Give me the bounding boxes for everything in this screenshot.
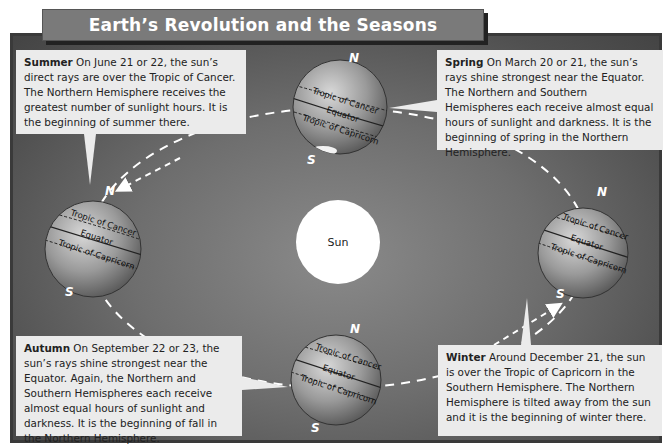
winter-heading: Winter bbox=[446, 351, 486, 363]
spring-heading: Spring bbox=[445, 56, 483, 68]
winter-pointer bbox=[521, 298, 531, 345]
diagram-title: Earth’s Revolution and the Seasons bbox=[89, 15, 438, 35]
summer-heading: Summer bbox=[24, 56, 73, 68]
south-pole-label: S bbox=[311, 421, 320, 435]
globe-spring: Tropic of Cancer Equator Tropic of Capri… bbox=[290, 51, 392, 167]
north-pole-label: N bbox=[597, 185, 607, 199]
globe-autumn: Tropic of Cancer Equator Tropic of Capri… bbox=[291, 322, 383, 435]
sun-label: Sun bbox=[328, 236, 349, 249]
autumn-heading: Autumn bbox=[24, 342, 70, 354]
autumn-text: On September 22 or 23, the sun’s rays sh… bbox=[24, 342, 219, 444]
globe-winter: Tropic of Cancer Equator Tropic of Capri… bbox=[538, 185, 630, 301]
summer-callout: Summer On June 21 or 22, the sun’s direc… bbox=[16, 50, 246, 134]
globe-summer: Tropic of Cancer Equator Tropic of Capri… bbox=[45, 184, 142, 299]
spring-pointer bbox=[389, 100, 437, 112]
spring-text: On March 20 or 21, the sun’s rays shine … bbox=[445, 56, 653, 158]
spring-callout: Spring On March 20 or 21, the sun’s rays… bbox=[437, 50, 663, 150]
south-pole-label: S bbox=[556, 287, 565, 301]
winter-callout: Winter Around December 21, the sun is ov… bbox=[438, 345, 662, 436]
south-pole-label: S bbox=[307, 153, 316, 167]
summer-pointer bbox=[84, 134, 96, 185]
autumn-callout: Autumn On September 22 or 23, the sun’s … bbox=[16, 336, 242, 436]
title-bar: Earth’s Revolution and the Seasons bbox=[42, 9, 484, 41]
north-pole-label: N bbox=[350, 322, 360, 336]
orbit-arrow-left bbox=[122, 158, 180, 188]
sun: Sun bbox=[296, 200, 380, 284]
north-pole-label: N bbox=[105, 184, 115, 198]
north-pole-label: N bbox=[349, 51, 359, 65]
south-pole-label: S bbox=[65, 285, 74, 299]
